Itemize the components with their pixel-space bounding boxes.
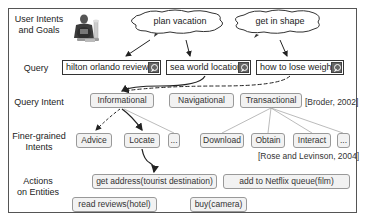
connector-arrows [0,0,365,221]
